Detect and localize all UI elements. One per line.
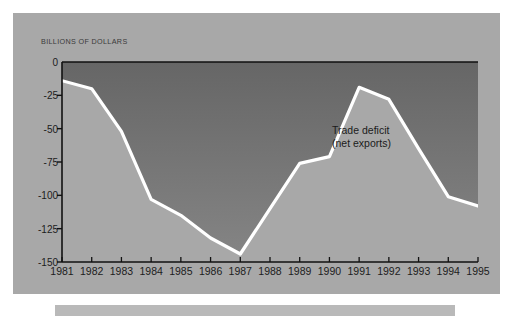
y-tick-label: -100: [38, 190, 58, 201]
x-tick-label: 1994: [437, 265, 460, 277]
y-tick-label: -25: [44, 90, 58, 101]
y-tick-label: -75: [44, 157, 58, 168]
x-tick-label: 1989: [288, 265, 311, 277]
annotation-line-2: (net exports): [332, 137, 391, 150]
y-axis-labels: 0-25-50-75-100-125-150: [18, 0, 58, 281]
x-tick-label: 1984: [139, 265, 162, 277]
x-tick-label: 1985: [169, 265, 192, 277]
x-tick-label: 1986: [199, 265, 222, 277]
x-axis-labels: 1981198219831984198519861987198819891990…: [62, 265, 478, 283]
x-tick-label: 1983: [110, 265, 133, 277]
x-tick-label: 1987: [229, 265, 252, 277]
plot-area: [62, 62, 478, 262]
x-tick-label: 1995: [466, 265, 489, 277]
y-tick-label: -125: [38, 223, 58, 234]
trade-deficit-area-chart: [62, 62, 478, 262]
y-tick-label: -50: [44, 123, 58, 134]
x-tick-label: 1990: [318, 265, 341, 277]
caption-bar: [55, 305, 455, 316]
figure-root: BILLIONS OF DOLLARS 0-25-50-75-100-125-1…: [0, 0, 521, 316]
deficit-area-fill: [62, 62, 478, 254]
annotation-line-1: Trade deficit: [332, 124, 391, 137]
trade-deficit-annotation: Trade deficit (net exports): [332, 124, 391, 150]
x-tick-label: 1992: [377, 265, 400, 277]
y-tick-label: 0: [52, 57, 58, 68]
x-tick-label: 1981: [50, 265, 73, 277]
x-tick-label: 1988: [258, 265, 281, 277]
x-tick-label: 1982: [80, 265, 103, 277]
x-tick-label: 1993: [407, 265, 430, 277]
x-tick-label: 1991: [347, 265, 370, 277]
